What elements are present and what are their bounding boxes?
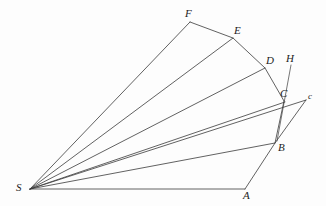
vertex-label-d: D — [266, 55, 274, 66]
vertex-label-c-lower: c — [308, 92, 312, 101]
vertex-label-h: H — [286, 53, 294, 64]
ray-s-to-c-upper — [30, 102, 285, 189]
ray-s-to-c-lower — [30, 100, 306, 189]
ray-s-to-f — [30, 22, 190, 189]
vertex-label-f: F — [185, 8, 192, 19]
vertex-label-b: B — [278, 142, 285, 153]
ray-s-to-e — [30, 38, 233, 189]
outer-chain — [190, 22, 284, 189]
vertex-label-c-upper: C — [280, 88, 287, 99]
vertex-label-a: A — [243, 190, 250, 201]
vertex-label-s: S — [16, 182, 22, 193]
vertex-label-e: E — [234, 25, 241, 36]
geometry-figure — [0, 0, 326, 206]
ray-bundle-from-S — [30, 22, 306, 189]
segment-h-transversal — [277, 65, 291, 141]
diagram-canvas: S A B C c D E F H — [0, 0, 326, 206]
ray-s-to-d — [30, 68, 265, 189]
